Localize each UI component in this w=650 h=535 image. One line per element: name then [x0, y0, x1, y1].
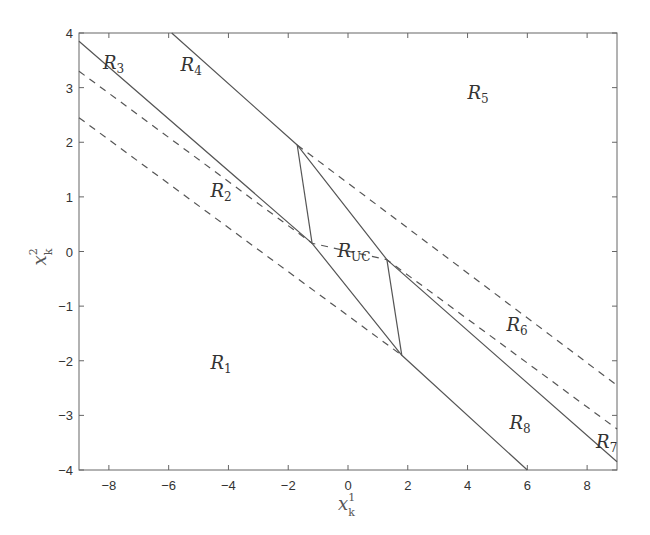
y-tick-label: 2: [66, 135, 73, 150]
y-tick-label: 3: [66, 81, 73, 96]
x-tick-label: 2: [404, 478, 411, 493]
y-tick-label: −1: [58, 299, 73, 314]
x-axis-label: x1k: [338, 491, 355, 519]
y-tick-label: 0: [66, 245, 73, 260]
y-tick-label: −4: [58, 463, 73, 478]
x-tick-label: 6: [524, 478, 531, 493]
x-tick-label: 8: [583, 478, 590, 493]
y-tick-label: −2: [58, 354, 73, 369]
y-tick-label: 4: [66, 26, 73, 41]
y-tick-label: −3: [58, 408, 73, 423]
x-tick-label: −2: [281, 478, 296, 493]
x-tick-label: −4: [221, 478, 236, 493]
x-tick-label: −6: [161, 478, 176, 493]
x-tick-label: −8: [101, 478, 116, 493]
y-axis-label: x2k: [27, 248, 55, 265]
y-tick-label: 1: [66, 190, 73, 205]
region-partition-plot: −8−6−4−202468 −4−3−2−101234 R3R4R5R2RUCR…: [0, 0, 650, 535]
x-tick-label: 4: [464, 478, 471, 493]
